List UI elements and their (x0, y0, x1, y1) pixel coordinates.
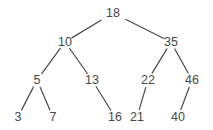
node-13: 13 (85, 73, 99, 87)
node-5: 5 (34, 73, 41, 87)
node-7: 7 (50, 110, 57, 124)
edge-46-40 (181, 87, 189, 109)
node-16: 16 (108, 110, 122, 124)
node-35: 35 (164, 35, 178, 49)
node-22: 22 (141, 73, 155, 87)
node-46: 46 (185, 73, 199, 87)
edge-13-16 (96, 87, 111, 110)
edge-5-7 (40, 87, 50, 109)
edge-35-46 (175, 49, 188, 73)
tree-diagram: 181035513224637162140 (0, 0, 213, 130)
edge-5-3 (22, 87, 34, 110)
node-10: 10 (58, 35, 72, 49)
edge-35-22 (152, 49, 167, 73)
edge-18-35 (126, 19, 164, 38)
node-3: 3 (15, 110, 22, 124)
edge-22-21 (139, 88, 145, 110)
edge-18-10 (72, 20, 101, 38)
node-18: 18 (106, 6, 120, 20)
node-21: 21 (130, 110, 144, 124)
edges-group (22, 19, 190, 110)
edge-10-5 (42, 48, 61, 73)
node-40: 40 (171, 110, 185, 124)
edge-10-13 (70, 49, 88, 74)
nodes-group: 181035513224637162140 (15, 6, 199, 124)
